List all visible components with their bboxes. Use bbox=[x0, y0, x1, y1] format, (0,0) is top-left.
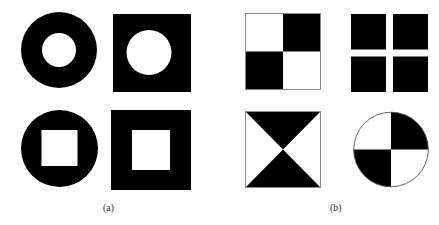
checkerboard-cell-top-right bbox=[283, 13, 321, 52]
shape-four-squares-with-white-cross bbox=[351, 14, 428, 92]
square-square-hole-svg bbox=[111, 110, 191, 190]
shape-checkerboard-square bbox=[245, 13, 321, 90]
four-squares-svg bbox=[351, 14, 428, 92]
shape-square-with-hourglass-triangles bbox=[245, 111, 321, 188]
annulus-svg bbox=[21, 12, 97, 88]
hourglass-svg bbox=[245, 111, 321, 188]
shape-circle-with-alternating-quadrants bbox=[353, 111, 429, 188]
panel-a: (a) bbox=[0, 0, 219, 225]
four-squares-top-right bbox=[393, 14, 428, 50]
checkerboard-cell-bottom-left bbox=[245, 52, 283, 91]
circle-square-hole-path bbox=[21, 110, 98, 187]
four-squares-bottom-left bbox=[351, 57, 386, 93]
square-circle-hole-svg bbox=[113, 14, 191, 92]
shape-circle-with-square-hole bbox=[21, 110, 98, 187]
shape-square-with-circular-hole bbox=[113, 14, 191, 92]
figure-canvas: (a) bbox=[0, 0, 439, 225]
annulus-path bbox=[21, 12, 97, 88]
shape-square-with-square-hole bbox=[111, 110, 191, 190]
four-squares-bottom-right bbox=[393, 57, 428, 93]
square-square-hole-path bbox=[111, 110, 191, 190]
circle-square-hole-svg bbox=[21, 110, 98, 187]
caption-panel-a: (a) bbox=[103, 203, 114, 213]
square-circle-hole-path bbox=[113, 14, 191, 92]
shape-circle-with-circular-hole bbox=[21, 12, 97, 88]
quadrant-circle-svg bbox=[353, 111, 429, 188]
checkerboard-svg bbox=[245, 13, 321, 90]
panel-b: (b) bbox=[220, 0, 439, 225]
caption-panel-b: (b) bbox=[330, 203, 342, 213]
four-squares-top-left bbox=[351, 14, 386, 50]
